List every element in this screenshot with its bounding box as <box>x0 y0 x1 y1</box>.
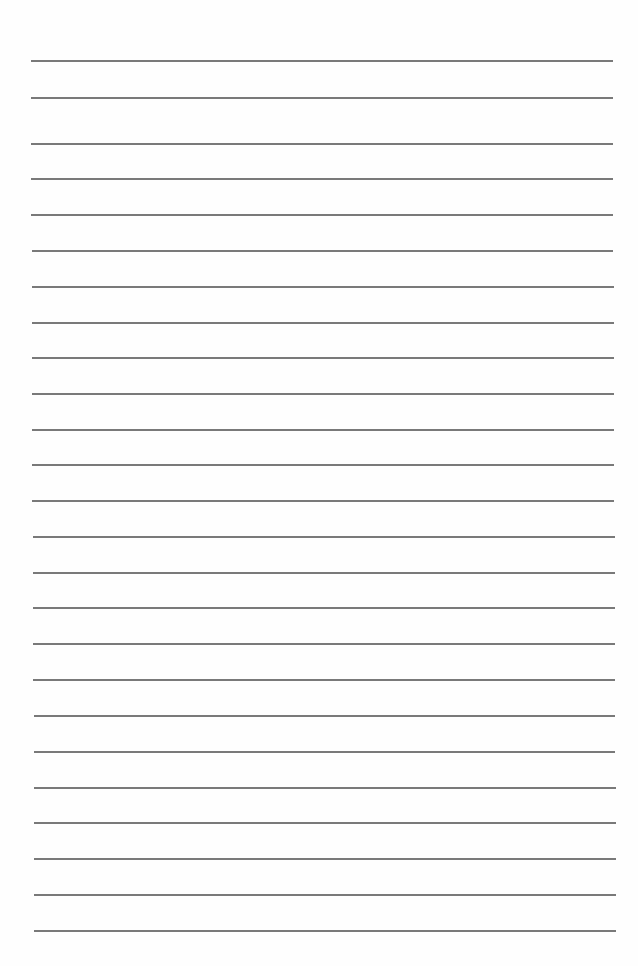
ruled-line <box>32 357 614 359</box>
ruled-line <box>32 464 614 466</box>
ruled-line <box>32 429 614 431</box>
ruled-line <box>33 643 615 645</box>
lined-paper-sheet <box>0 0 638 966</box>
ruled-line <box>32 322 614 324</box>
ruled-line <box>31 143 613 145</box>
ruled-line <box>34 787 616 789</box>
ruled-line <box>34 894 616 896</box>
ruled-line <box>32 250 613 252</box>
ruled-line <box>33 679 615 681</box>
ruled-line <box>31 178 613 180</box>
ruled-line <box>34 751 615 753</box>
ruled-line <box>32 286 614 288</box>
ruled-line <box>33 536 615 538</box>
ruled-line <box>34 930 616 932</box>
ruled-line <box>31 97 613 99</box>
ruled-line <box>33 607 615 609</box>
ruled-line <box>34 858 616 860</box>
ruled-line <box>32 393 614 395</box>
ruled-line <box>33 572 615 574</box>
ruled-line <box>31 214 613 216</box>
ruled-line <box>31 60 613 62</box>
ruled-line <box>34 715 615 717</box>
ruled-line <box>32 500 614 502</box>
ruled-line <box>34 822 616 824</box>
